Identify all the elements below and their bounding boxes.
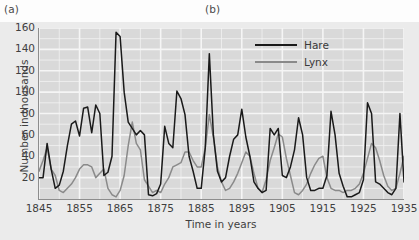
x-tick-label: 1865 (107, 202, 134, 214)
legend-swatch-lynx-icon (255, 61, 297, 63)
y-tick-label: 160 (2, 21, 35, 33)
x-tick-label: 1915 (310, 202, 337, 214)
legend-label: Lynx (304, 56, 328, 68)
legend-item-lynx: Lynx (255, 53, 360, 70)
panel-label-a: (a) (4, 3, 19, 15)
x-axis-label: Time in years (38, 218, 404, 230)
x-tick-label: 1845 (26, 202, 53, 214)
x-tick-label: 1875 (147, 202, 174, 214)
panel-label-b: (b) (205, 3, 220, 15)
x-tick-label: 1895 (228, 202, 255, 214)
x-tick-label: 1885 (188, 202, 215, 214)
legend-swatch-hare-icon (255, 44, 297, 46)
x-tick-label: 1925 (350, 202, 377, 214)
x-tick-label: 1935 (391, 202, 418, 214)
figure-container: 20406080100120140160 Number in thousands… (0, 22, 419, 240)
x-tick-label: 1855 (66, 202, 93, 214)
x-tick-label: 1905 (269, 202, 296, 214)
y-axis-label: Number in thousands (18, 46, 30, 186)
chart-legend: HareLynx (255, 36, 360, 70)
y-axis-line (38, 28, 39, 200)
x-axis-line (38, 199, 404, 200)
legend-label: Hare (304, 39, 329, 51)
legend-item-hare: Hare (255, 36, 360, 53)
